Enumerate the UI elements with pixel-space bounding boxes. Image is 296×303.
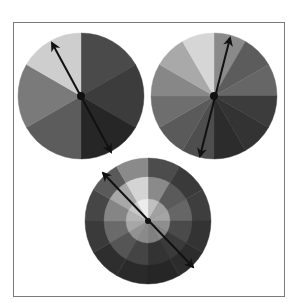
six-segment-wheel (18, 33, 144, 159)
wheel-center-dot (77, 92, 85, 100)
wheels-group (18, 33, 277, 284)
ringed-twelve-segment-wheel (85, 158, 211, 284)
twelve-segment-wheel (151, 33, 277, 159)
color-wheel-diagram (0, 0, 296, 303)
wheel-center-dot (210, 92, 218, 100)
wheel-center-dot (145, 218, 151, 224)
